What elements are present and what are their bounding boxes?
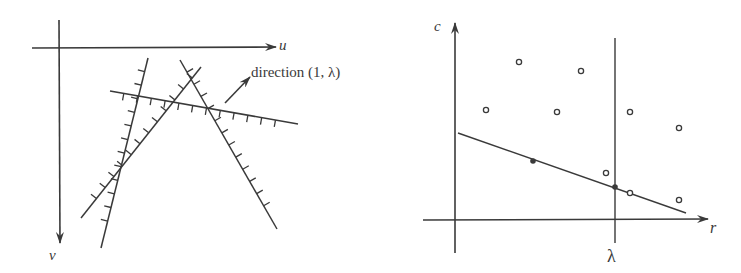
hatch-mark [243, 166, 249, 169]
line-b [81, 67, 201, 218]
line-a [101, 58, 148, 248]
left-panel: u v direction (1, λ) [32, 20, 340, 263]
hatch-mark [150, 98, 151, 105]
hatch-mark [135, 139, 140, 143]
r-axis-label: r [710, 219, 717, 236]
fitted-line [458, 133, 686, 213]
hatch-mark [222, 129, 228, 132]
hatch-mark [134, 83, 141, 85]
hatch-mark [260, 118, 261, 125]
r-axis [423, 219, 708, 220]
hatch-mark [233, 113, 234, 120]
open-points [483, 59, 681, 202]
hatch-mark [187, 69, 193, 72]
direction-label: direction (1, λ) [251, 64, 340, 81]
hatch-mark [143, 128, 148, 132]
direction-arrow [225, 77, 250, 103]
hatch-mark [101, 219, 108, 221]
hatch-mark [229, 142, 235, 145]
right-panel: c r λ [423, 18, 717, 266]
v-axis-label: v [49, 247, 56, 263]
open-point [483, 107, 488, 112]
hatch-mark [123, 93, 124, 100]
hatch-mark [247, 115, 248, 122]
u-axis [32, 47, 276, 48]
open-point [554, 109, 559, 114]
open-point [676, 125, 681, 130]
hatch-mark [205, 108, 206, 115]
open-point [578, 68, 583, 73]
hatch-mark [164, 101, 165, 108]
hatch-mark [178, 85, 183, 89]
hatch-mark [108, 172, 113, 176]
hatch-mark [169, 96, 174, 100]
hatch-mark [128, 111, 135, 113]
hatch-mark [194, 81, 200, 84]
hatch-mark [104, 206, 111, 208]
open-point [603, 170, 608, 175]
hatch-mark [178, 103, 179, 110]
v-axis [59, 20, 60, 243]
hatch-mark [118, 151, 125, 153]
hatch-mark [219, 110, 220, 117]
hatch-mark [126, 150, 131, 154]
hatch-mark [257, 190, 263, 193]
hatch-mark [114, 165, 121, 167]
filled-point [612, 184, 618, 190]
hatch-mark [250, 178, 256, 181]
open-point [627, 190, 632, 195]
hatch-mark [100, 183, 105, 187]
hatch-mark [152, 117, 157, 121]
hatch-mark [236, 154, 242, 157]
u-axis-label: u [279, 37, 287, 53]
hatch-mark [124, 124, 131, 126]
open-point [516, 59, 521, 64]
line-c [180, 60, 277, 229]
open-point [676, 197, 681, 202]
open-point [627, 109, 632, 114]
hatch-mark [138, 70, 145, 72]
hatch-mark [91, 194, 96, 198]
hatch-mark [121, 138, 128, 140]
figure-canvas: u v direction (1, λ) c r λ [0, 0, 741, 273]
c-axis-label: c [434, 18, 441, 34]
hatch-mark [215, 117, 221, 120]
line-d [110, 91, 298, 124]
hatch-mark [201, 93, 207, 96]
constraint-lines [81, 58, 298, 248]
hatch-mark [274, 120, 275, 127]
lambda-label: λ [607, 246, 616, 266]
filled-point [530, 158, 536, 164]
hatch-mark [108, 192, 115, 194]
hatch-mark [192, 106, 193, 113]
hatch-mark [264, 202, 270, 205]
